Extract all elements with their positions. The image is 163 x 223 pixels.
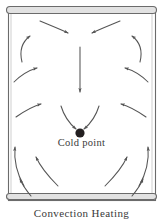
convection-diagram: [0, 0, 163, 223]
convection-heating-figure: Cold point Convection Heating: [0, 0, 163, 223]
figure-caption: Convection Heating: [0, 207, 163, 219]
container-vessel: [7, 7, 157, 201]
cold-point-label: Cold point: [0, 137, 163, 148]
container-top-rim: [7, 7, 157, 14]
container-bottom-rim: [7, 194, 157, 200]
